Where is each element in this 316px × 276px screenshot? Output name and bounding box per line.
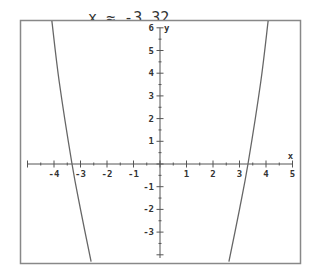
y-tick-label: 4 (149, 68, 155, 78)
y-tick-label: -2 (143, 204, 154, 214)
x-tick-label: -1 (128, 169, 139, 179)
y-tick-label: 1 (149, 136, 154, 146)
y-axis-label: y (164, 23, 170, 33)
y-tick-label: -1 (143, 182, 154, 192)
y-tick-label: 3 (149, 91, 154, 101)
x-tick-label: -2 (102, 169, 113, 179)
x-tick-label: 3 (237, 169, 242, 179)
x-tick-label: 2 (210, 169, 215, 179)
y-tick-label: 2 (149, 114, 154, 124)
x-tick-label: -3 (75, 169, 86, 179)
x-tick-label: 4 (263, 169, 269, 179)
y-tick-label: -3 (143, 227, 154, 237)
x-axis-label: x (288, 151, 294, 161)
x-tick-label: -4 (49, 169, 60, 179)
y-tick-label: 5 (149, 46, 154, 56)
y-tick-label: 6 (149, 23, 154, 33)
function-plot: -4-3-2-112345654321-1-2-3xy (0, 0, 316, 276)
x-tick-label: 1 (184, 169, 189, 179)
x-tick-label: 5 (290, 169, 295, 179)
